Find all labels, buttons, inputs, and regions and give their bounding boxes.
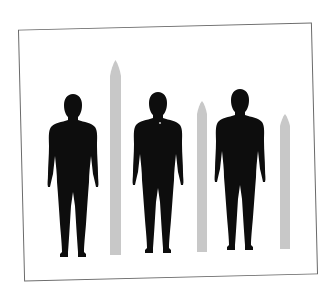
pole-3 [280,114,290,249]
illustration [0,0,330,295]
person-icon [46,94,100,257]
pole-1 [110,60,121,255]
human-silhouette-1 [46,94,100,257]
pole-marker-icon [280,114,290,249]
pole-marker-icon [197,101,207,252]
pole-marker-icon [110,60,121,255]
pole-2 [197,101,207,252]
person-icon [131,92,185,253]
person-icon [213,89,267,250]
human-silhouette-3 [213,89,267,250]
human-silhouette-2 [131,92,185,253]
